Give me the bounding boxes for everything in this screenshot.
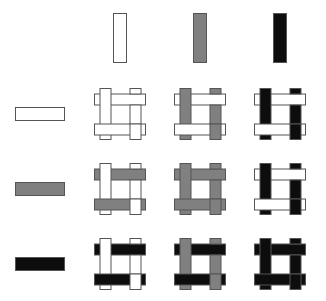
weave-cell-r2-c0 <box>80 226 160 301</box>
vertical-bar-gray <box>194 14 207 63</box>
vertical-strand-right-upper <box>210 238 221 244</box>
vertical-strand-right-lower <box>130 124 141 140</box>
vertical-strand-right-upper <box>290 163 301 169</box>
horizontal-bar-black <box>16 257 65 270</box>
vertical-strand-right-middle <box>290 255 301 274</box>
vertical-strand-right-upper <box>290 88 301 94</box>
weave-graphic <box>94 88 146 140</box>
vertical-strand-right-lower <box>290 199 301 215</box>
vertical-strand-right-upper <box>130 238 141 244</box>
weave-graphic <box>254 163 306 215</box>
weave-graphic <box>94 238 146 290</box>
matrix-corner-blank <box>0 0 80 76</box>
weave-cell-r2-c2 <box>240 226 320 301</box>
vertical-strand-right-lower <box>130 199 141 215</box>
weave-graphic <box>15 257 65 271</box>
weave-graphic <box>15 182 65 196</box>
weave-graphic <box>174 163 226 215</box>
weave-cell-r1-c1 <box>160 151 240 226</box>
weave-cell-r2-c1 <box>160 226 240 301</box>
vertical-strand-right-middle <box>130 180 141 199</box>
horizontal-bar-white <box>16 107 65 120</box>
header-vertical-bar-1 <box>160 0 240 76</box>
vertical-strand-right-lower <box>210 274 221 290</box>
vertical-bar-white <box>114 14 127 63</box>
header-vertical-bar-2 <box>240 0 320 76</box>
vertical-strand-right-middle <box>130 255 141 274</box>
header-vertical-bar-0 <box>80 0 160 76</box>
vertical-strand-right-upper <box>290 238 301 244</box>
vertical-strand-right-upper <box>210 163 221 169</box>
vertical-strand-right-lower <box>130 274 141 290</box>
vertical-strand-right-middle <box>210 180 221 199</box>
weave-graphic <box>174 238 226 290</box>
vertical-strand-right-upper <box>130 163 141 169</box>
weave-graphic <box>273 13 287 63</box>
vertical-strand-right-middle <box>130 105 141 124</box>
vertical-strand-right-upper <box>130 88 141 94</box>
weave-matrix-figure <box>0 0 326 301</box>
matrix-grid <box>0 0 326 301</box>
vertical-strand-right-middle <box>290 105 301 124</box>
vertical-bar-black <box>274 14 287 63</box>
vertical-strand-right-middle <box>210 255 221 274</box>
weave-cell-r0-c1 <box>160 76 240 151</box>
vertical-strand-right-middle <box>290 180 301 199</box>
weave-graphic <box>15 107 65 121</box>
vertical-strand-right-lower <box>210 124 221 140</box>
header-horizontal-bar-1 <box>0 151 80 226</box>
weave-graphic <box>193 13 207 63</box>
weave-graphic <box>174 88 226 140</box>
weave-graphic <box>113 13 127 63</box>
horizontal-bar-gray <box>16 182 65 195</box>
weave-graphic <box>254 88 306 140</box>
weave-graphic <box>94 163 146 215</box>
header-horizontal-bar-0 <box>0 76 80 151</box>
vertical-strand-right-lower <box>290 124 301 140</box>
weave-cell-r0-c0 <box>80 76 160 151</box>
header-horizontal-bar-2 <box>0 226 80 301</box>
weave-graphic <box>254 238 306 290</box>
weave-cell-r0-c2 <box>240 76 320 151</box>
weave-cell-r1-c2 <box>240 151 320 226</box>
vertical-strand-right-lower <box>210 199 221 215</box>
vertical-strand-right-lower <box>290 274 301 290</box>
vertical-strand-right-upper <box>210 88 221 94</box>
vertical-strand-right-middle <box>210 105 221 124</box>
weave-cell-r1-c0 <box>80 151 160 226</box>
